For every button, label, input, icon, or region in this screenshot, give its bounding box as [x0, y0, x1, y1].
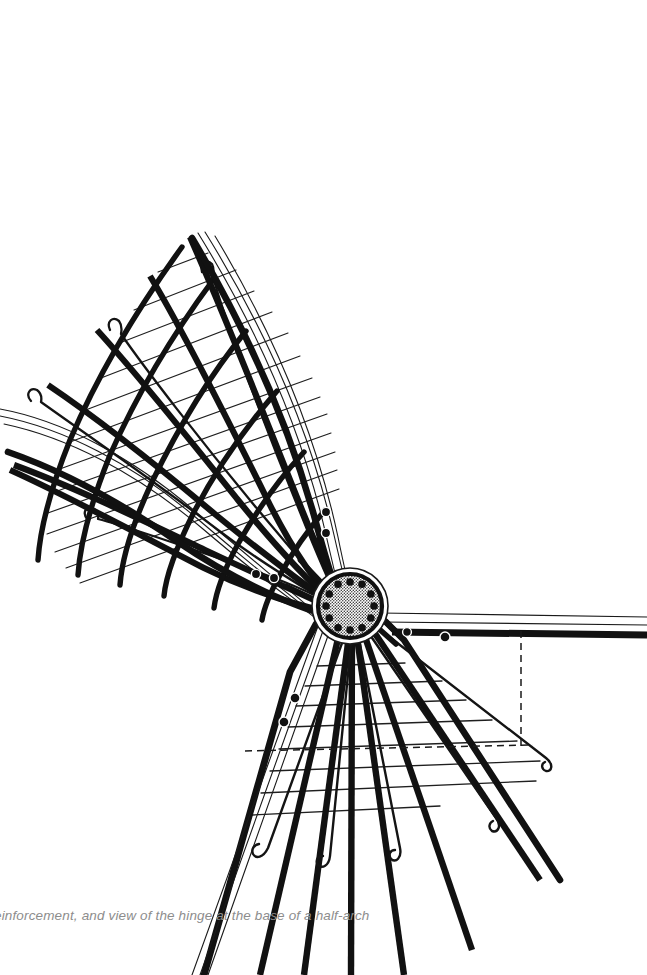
drawing-page: einforcement, and view of the hinge at t…	[0, 0, 647, 975]
hinge-bolt	[334, 624, 342, 632]
hinge-bolt	[370, 602, 378, 610]
hinge-bolt	[358, 580, 366, 588]
bolt-marker	[321, 507, 330, 516]
lower-fan-thin-ties	[252, 663, 540, 815]
hinge-bolt	[367, 614, 375, 622]
bolt-marker	[290, 693, 300, 703]
horizontal-tie-beam	[380, 613, 647, 635]
hinge-bolt	[325, 590, 333, 598]
hinge-bolt	[334, 580, 342, 588]
bolt-marker	[440, 632, 450, 642]
technical-drawing	[0, 0, 647, 975]
hinge-bolt	[322, 602, 330, 610]
upper-arch-outline	[0, 232, 352, 624]
bolt-marker	[403, 628, 412, 637]
bolt-marker	[251, 569, 260, 578]
bolt-marker	[321, 528, 330, 537]
figure-caption: einforcement, and view of the hinge at t…	[0, 902, 647, 930]
upper-fan-thin-ties	[45, 253, 339, 583]
hinge-bolt	[346, 626, 354, 634]
lower-fan-right-raker	[386, 622, 560, 880]
hinge-bolt	[325, 614, 333, 622]
bolt-marker	[279, 717, 289, 727]
hinge-bolt	[358, 624, 366, 632]
pin-hinge-plate	[312, 568, 388, 644]
hinge-bolt	[346, 578, 354, 586]
bolt-marker	[269, 573, 278, 582]
hinge-bolt	[367, 590, 375, 598]
